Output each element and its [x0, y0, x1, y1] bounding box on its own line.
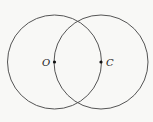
point-c-label: C: [106, 57, 114, 68]
point-o-dot: [53, 60, 56, 63]
diagram-canvas: O C: [0, 0, 153, 122]
point-o-label: O: [42, 57, 50, 68]
point-c-dot: [99, 60, 102, 63]
